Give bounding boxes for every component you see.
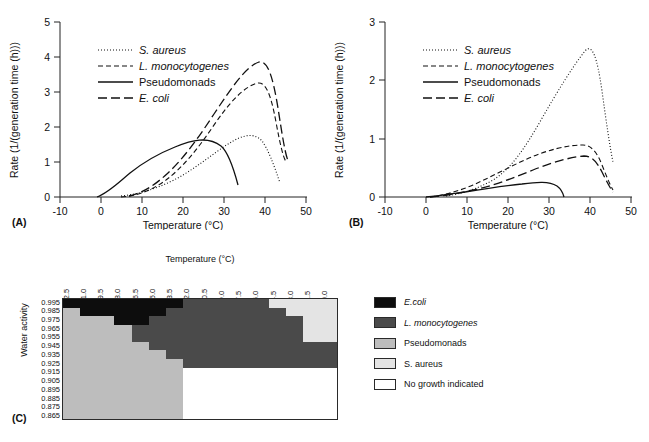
- grid-cell-pseudomonads: [166, 410, 183, 419]
- grid-cell-l-monocytogenes: [234, 350, 251, 359]
- grid-cell-pseudomonads: [166, 376, 183, 385]
- grid-cell-pseudomonads: [114, 359, 131, 368]
- grid-cell-l-monocytogenes: [269, 333, 286, 342]
- ytick-label: 3: [44, 86, 50, 98]
- grid-cell-pseudomonads: [97, 350, 114, 359]
- grid-cell-pseudomonads: [63, 308, 80, 317]
- grid-cell-no-growth: [269, 368, 286, 377]
- grid-cell-pseudomonads: [149, 385, 166, 394]
- ytick-label: 0: [369, 191, 375, 203]
- grid-cell-l-monocytogenes: [183, 325, 200, 334]
- grid-cell-no-growth: [234, 410, 251, 419]
- grid-cell-s-aureus: [320, 316, 337, 325]
- grid-cell-l-monocytogenes: [200, 342, 217, 351]
- grid-cell-pseudomonads: [97, 368, 114, 377]
- grid-cell-l-monocytogenes: [269, 342, 286, 351]
- grid-cell-l-monocytogenes: [200, 308, 217, 317]
- grid-cell-s-aureus: [320, 299, 337, 308]
- grid-cell-l-monocytogenes: [286, 350, 303, 359]
- grid-cell-pseudomonads: [97, 325, 114, 334]
- column-header-4: 16.5: [131, 266, 148, 296]
- grid-cell-pseudomonads: [132, 359, 149, 368]
- grid-cell-no-growth: [200, 410, 217, 419]
- legend-label: No growth indicated: [404, 379, 484, 389]
- panel-c-legend: E.coliL. monocytogenesPseudomonadsS. aur…: [374, 292, 594, 395]
- grid-cell-l-monocytogenes: [251, 333, 268, 342]
- grid-cell-no-growth: [200, 368, 217, 377]
- grid-cell-pseudomonads: [63, 402, 80, 411]
- legend-label: E.coli: [404, 297, 426, 307]
- grid-cell-pseudomonads: [63, 410, 80, 419]
- grid-cell-pseudomonads: [80, 359, 97, 368]
- ytick-label: 2: [44, 121, 50, 133]
- column-header-14: 1.5: [304, 266, 321, 296]
- legend-label: S. aureus: [404, 359, 443, 369]
- grid-cell-no-growth: [286, 393, 303, 402]
- grid-cell-l-monocytogenes: [286, 333, 303, 342]
- grid-cell-no-growth: [183, 410, 200, 419]
- grid-cell-pseudomonads: [149, 393, 166, 402]
- grid-cell-e-coli: [114, 299, 131, 308]
- legend-row-3: S. aureus: [374, 354, 594, 375]
- grid-cell-l-monocytogenes: [217, 299, 234, 308]
- series-curve-pseudomonads: [97, 140, 238, 197]
- grid-cell-pseudomonads: [149, 402, 166, 411]
- grid-cell-pseudomonads: [132, 393, 149, 402]
- grid-cell-pseudomonads: [97, 385, 114, 394]
- grid-cell-l-monocytogenes: [234, 333, 251, 342]
- grid-cell-no-growth: [269, 402, 286, 411]
- panel-c-xaxis-title: Temperature (°C): [60, 254, 340, 264]
- legend-label-s-aureus: S. aureus: [464, 44, 512, 56]
- panel-b-legend: S. aureus L. monocytogenes Pseudomonads …: [423, 44, 554, 104]
- grid-cell-l-monocytogenes: [234, 359, 251, 368]
- grid-cell-pseudomonads: [149, 410, 166, 419]
- grid-cell-pseudomonads: [63, 325, 80, 334]
- grid-cell-l-monocytogenes: [269, 308, 286, 317]
- grid-cell-l-monocytogenes: [269, 350, 286, 359]
- grid-cell-no-growth: [183, 402, 200, 411]
- column-header-12: 4.5: [269, 266, 286, 296]
- grid-cell-no-growth: [286, 368, 303, 377]
- grid-cell-s-aureus: [303, 325, 320, 334]
- legend-swatch: [374, 317, 396, 328]
- xtick-label: 0: [423, 205, 429, 217]
- grid-cell-l-monocytogenes: [200, 299, 217, 308]
- grid-cell-no-growth: [303, 385, 320, 394]
- grid-cell-pseudomonads: [80, 385, 97, 394]
- column-header-15: 0.0: [321, 266, 338, 296]
- column-header-10: 7.5: [235, 266, 252, 296]
- grid-cell-s-aureus: [269, 299, 286, 308]
- grid-cell-no-growth: [234, 376, 251, 385]
- grid-cell-pseudomonads: [166, 393, 183, 402]
- legend-label-l-monocytogenes: L. monocytogenes: [139, 60, 229, 72]
- grid-cell-pseudomonads: [97, 393, 114, 402]
- grid-cell-l-monocytogenes: [183, 342, 200, 351]
- grid-cell-pseudomonads: [80, 316, 97, 325]
- grid-cell-l-monocytogenes: [166, 325, 183, 334]
- grid-cell-l-monocytogenes: [183, 316, 200, 325]
- grid-cell-pseudomonads: [149, 368, 166, 377]
- xtick-label: -10: [52, 205, 67, 217]
- grid-cell-no-growth: [251, 368, 268, 377]
- grid-cell-l-monocytogenes: [303, 359, 320, 368]
- grid-cell-pseudomonads: [97, 333, 114, 342]
- column-header-6: 13.5: [166, 266, 183, 296]
- grid-cell-pseudomonads: [80, 410, 97, 419]
- grid-cell-no-growth: [217, 385, 234, 394]
- panel-a-plot: 0 1 2 3 4 5 -10 0 10 20 30 40 50 Tempera…: [0, 0, 325, 230]
- column-header-13: 3.0: [286, 266, 303, 296]
- grid-cell-e-coli: [132, 316, 149, 325]
- xtick-label: 40: [584, 205, 596, 217]
- grid-cell-pseudomonads: [149, 376, 166, 385]
- xtick-label: 30: [543, 205, 555, 217]
- column-header-5: 15.0: [148, 266, 165, 296]
- grid-cell-l-monocytogenes: [149, 342, 166, 351]
- panel-c-grid: [62, 298, 338, 420]
- grid-cell-l-monocytogenes: [320, 342, 337, 351]
- grid-cell-pseudomonads: [114, 410, 131, 419]
- panel-a-yaxis-title: Rate (1/(generation time (h))): [8, 42, 20, 178]
- xtick-label: 50: [300, 205, 312, 217]
- grid-cell-l-monocytogenes: [166, 350, 183, 359]
- panel-a-label: (A): [12, 216, 27, 228]
- panel-b-yaxis-title: Rate (1/(generation time (h))): [333, 42, 345, 178]
